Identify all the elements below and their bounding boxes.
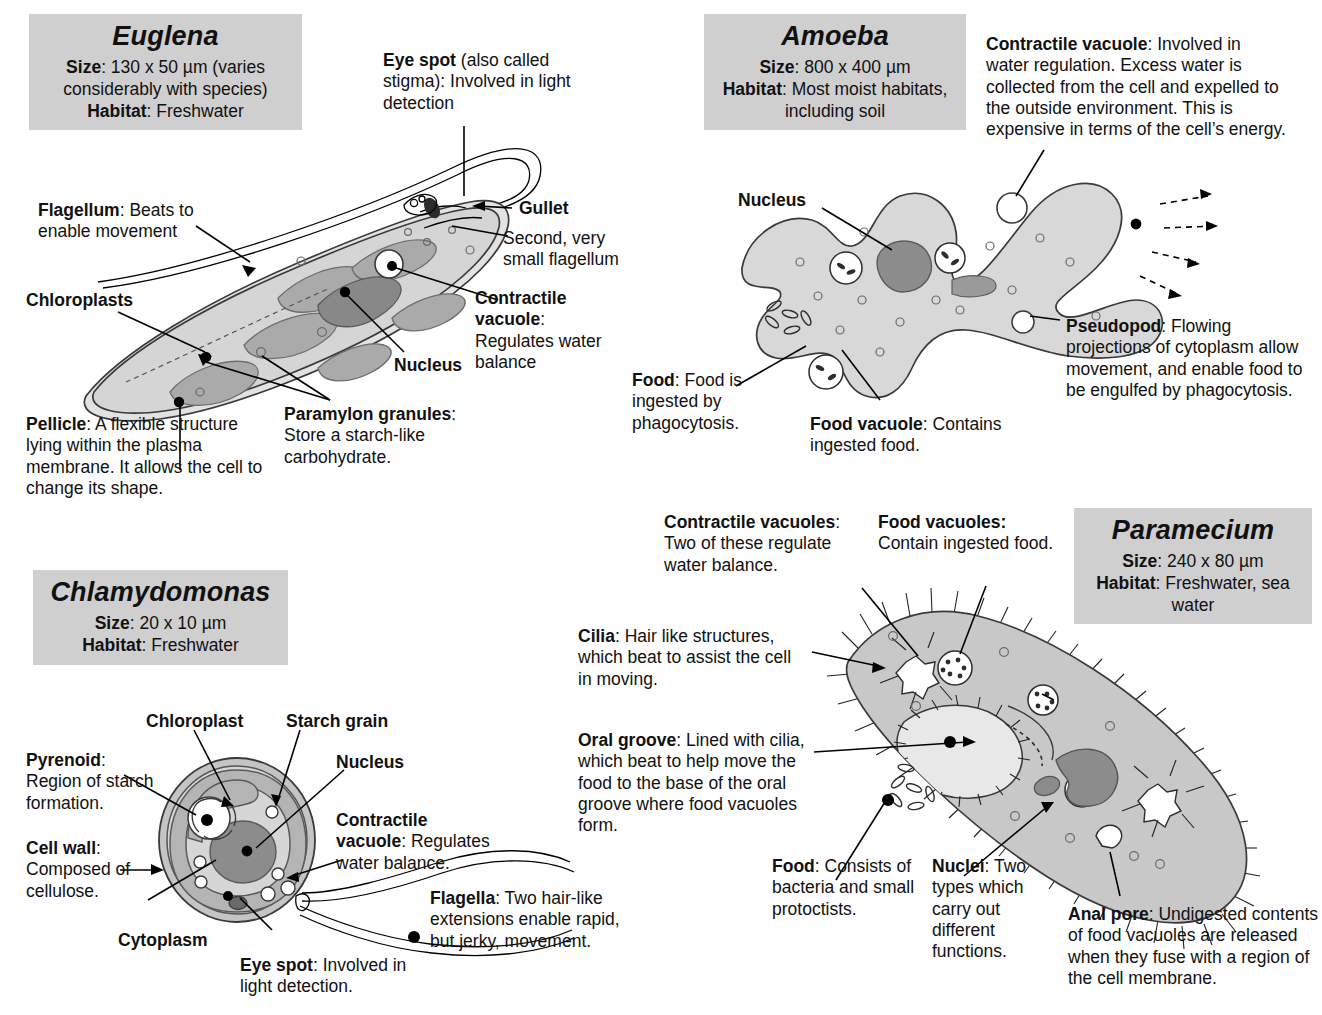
- paramecium-food-term: Food: [772, 856, 815, 876]
- paramecium-anal-pore-label: Anal pore: Undigested contents of food v…: [1068, 904, 1318, 989]
- paramecium-oral-groove-label: Oral groove: Lined with cilia, which bea…: [578, 730, 830, 837]
- paramecium-cilia-term: Cilia: [578, 626, 615, 646]
- paramecium-drawing: [0, 0, 1322, 1015]
- paramecium-contractile-vacuoles-term: Contractile vacuoles: [664, 512, 835, 532]
- paramecium-cilia-label: Cilia: Hair like structures, which beat …: [578, 626, 793, 690]
- paramecium-oral-groove-term: Oral groove: [578, 730, 676, 750]
- paramecium-food-vacuoles-term: Food vacuoles:: [878, 512, 1006, 532]
- paramecium-nuclei-term: Nuclei: [932, 856, 985, 876]
- paramecium-anal-pore-term: Anal pore: [1068, 904, 1149, 924]
- paramecium-food-vacuoles-label: Food vacuoles: Contain ingested food.: [878, 512, 1063, 555]
- paramecium-contractile-vacuoles-label: Contractile vacuoles: Two of these regul…: [664, 512, 864, 576]
- paramecium-nuclei-label: Nuclei: Two types which carry out differ…: [932, 856, 1067, 963]
- paramecium-food-label: Food: Consists of bacteria and small pro…: [772, 856, 922, 920]
- diagram-canvas: Euglena Size: 130 x 50 µm (varies consid…: [0, 0, 1322, 1015]
- paramecium-food-vacuoles-text: Contain ingested food.: [878, 533, 1053, 553]
